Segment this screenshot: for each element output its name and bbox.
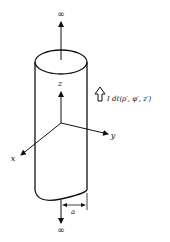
radius-arrowhead-left — [62, 203, 67, 207]
z-axis-label: z — [57, 79, 63, 88]
top-infinity-label: ∞ — [57, 9, 65, 19]
x-axis — [21, 123, 61, 155]
current-element-label: I dℓ(ρ′, φ′, z′) — [106, 95, 151, 103]
radius-arrowhead-right — [81, 203, 86, 207]
y-axis — [61, 123, 108, 134]
bottom-infinity-label: ∞ — [57, 225, 65, 235]
radius-label: a — [71, 208, 75, 216]
y-axis-label: y — [110, 131, 116, 140]
cylinder-diagram: ∞ z y x I dℓ(ρ′, φ′, z′) ∞ a — [0, 0, 170, 242]
cylinder-bottom-curve — [35, 190, 87, 200]
current-element-arrow-icon — [95, 87, 105, 101]
x-axis-label: x — [11, 154, 16, 163]
cylinder — [35, 50, 87, 200]
